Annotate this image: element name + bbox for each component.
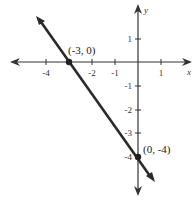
y-axis-label: y bbox=[143, 5, 148, 15]
x-tick-label: 1 bbox=[159, 68, 164, 78]
point-x-intercept bbox=[66, 59, 72, 65]
x-tick-label: -1 bbox=[111, 68, 119, 78]
y-tick-label: -2 bbox=[125, 105, 133, 115]
y-axis bbox=[134, 4, 142, 196]
x-tick-label: -2 bbox=[88, 68, 96, 78]
point-y-intercept bbox=[135, 154, 141, 160]
point-y-intercept-label: (0, -4) bbox=[143, 143, 171, 156]
x-axis-label: x bbox=[186, 67, 191, 77]
x-axis bbox=[10, 58, 192, 66]
y-tick-label: -3 bbox=[125, 128, 133, 138]
point-x-intercept-label: (-3, 0) bbox=[68, 44, 96, 57]
coordinate-plane: -4 -2 -1 1 1 -1 -2 -3 -4 x y (-3, 0) (0,… bbox=[0, 0, 193, 202]
y-tick-label: 1 bbox=[128, 34, 133, 44]
x-tick-label: -4 bbox=[42, 68, 50, 78]
y-tick-label: -4 bbox=[125, 152, 133, 162]
y-tick-label: -1 bbox=[125, 81, 133, 91]
